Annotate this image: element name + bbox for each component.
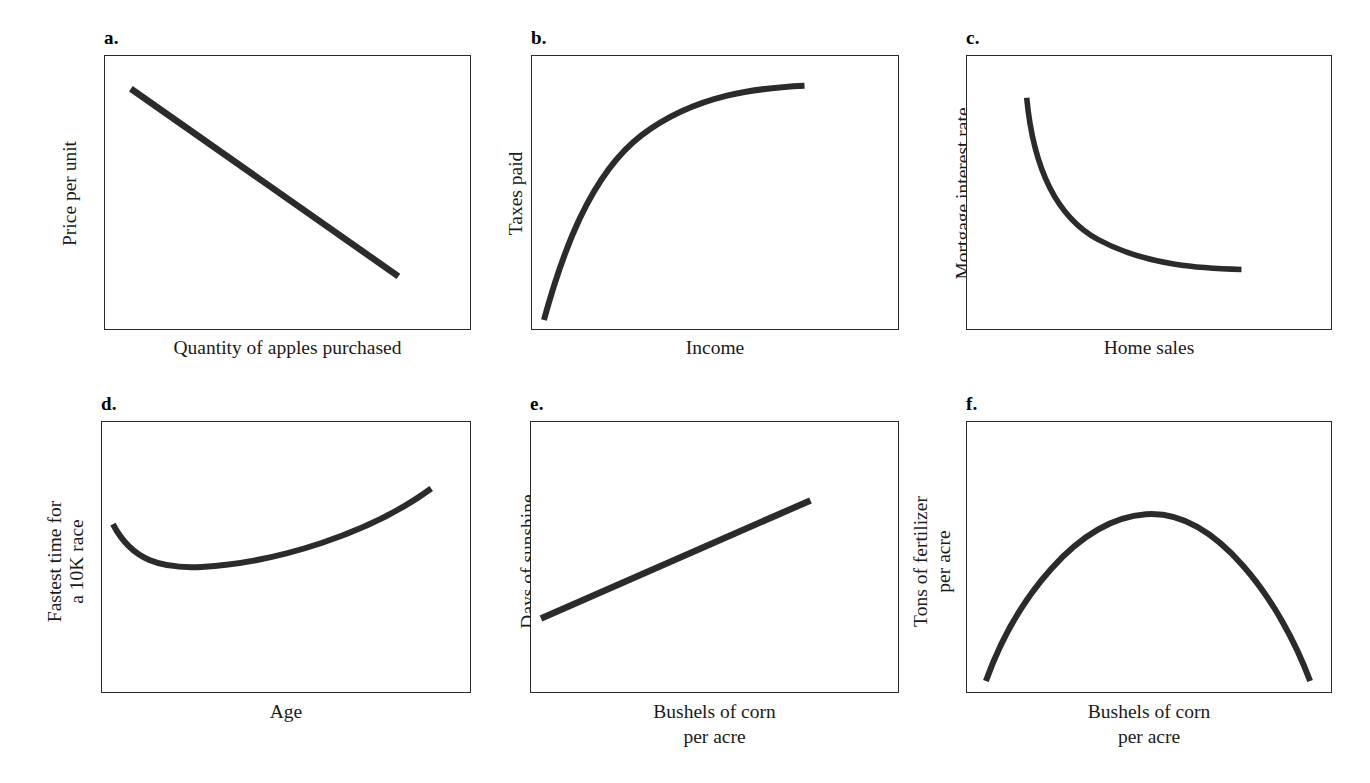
panel-f-x-axis-label-line2: per acre [966, 725, 1332, 748]
panel-f-plot-box [966, 421, 1332, 693]
panel-f-letter: f. [966, 394, 977, 413]
panel-f-x-axis-label-line1: Bushels of corn [966, 700, 1332, 723]
panel-f-y-axis-label-line2: per acre [932, 462, 955, 662]
panel-f-y-axis-label-line1: Tons of fertilizer [909, 462, 932, 662]
panel-f: f. Tons of fertilizer per acre Bushels o… [0, 0, 1370, 783]
panel-f-curve-svg [967, 422, 1331, 692]
figure-grid: a. Price per unit Quantity of apples pur… [0, 0, 1370, 783]
panel-f-line-series [986, 514, 1310, 681]
